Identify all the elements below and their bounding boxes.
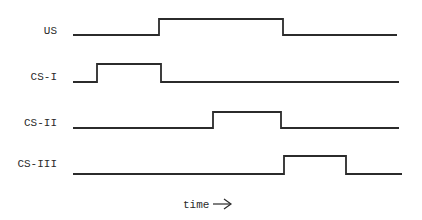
signal-label-cs-ii: CS-II	[24, 117, 57, 129]
signal-label-cs-iii: CS-III	[17, 158, 57, 170]
time-axis-label: time	[183, 199, 231, 211]
signal-trace-cs-ii	[73, 112, 399, 128]
signal-cs-ii: CS-II	[24, 112, 399, 129]
time-label: time	[183, 199, 209, 211]
signal-trace-cs-i	[73, 64, 399, 82]
signal-cs-iii: CS-III	[17, 156, 402, 174]
timing-diagram: US CS-I CS-II CS-III time	[0, 0, 422, 220]
arrow-right-icon	[213, 199, 231, 209]
signal-trace-us	[73, 19, 397, 35]
signal-us: US	[44, 19, 397, 37]
signal-cs-i: CS-I	[31, 64, 399, 83]
signal-label-us: US	[44, 25, 58, 37]
signal-trace-cs-iii	[73, 156, 402, 174]
signal-label-cs-i: CS-I	[31, 71, 57, 83]
